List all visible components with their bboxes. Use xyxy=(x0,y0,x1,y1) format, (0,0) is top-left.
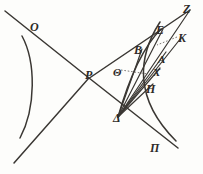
point-label-A: A xyxy=(158,54,165,65)
point-label-pi: Π xyxy=(150,142,159,154)
point-label-E: E xyxy=(156,24,164,36)
point-label-Z: Z xyxy=(183,3,190,15)
point-label-X: X xyxy=(153,67,160,78)
ray-delta-to-B xyxy=(118,49,142,117)
point-label-delta: Δ xyxy=(113,112,121,124)
point-label-B: B xyxy=(134,44,142,56)
rays-from-delta-group xyxy=(118,10,190,117)
point-label-O: O xyxy=(30,21,39,33)
geometric-figure: O P Θ Π Δ Z E K B A X H xyxy=(0,0,203,174)
point-label-theta: Θ xyxy=(113,67,121,78)
point-label-H: H xyxy=(146,83,155,95)
point-label-K: K xyxy=(178,32,186,44)
point-label-P: P xyxy=(85,69,92,81)
ray-delta-to-Z xyxy=(118,10,190,117)
hyperbola-left-branch xyxy=(20,36,32,138)
